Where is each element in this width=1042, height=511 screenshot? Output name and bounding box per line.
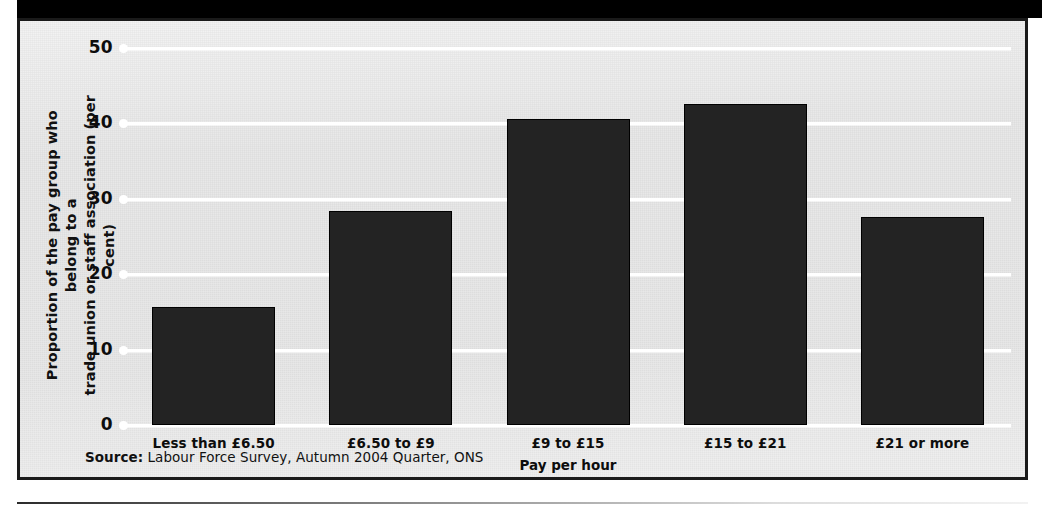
y-axis-tick-label: 40 xyxy=(89,112,113,132)
x-axis-category-label: £15 to £21 xyxy=(657,435,834,451)
gridline: 50 xyxy=(125,47,1011,50)
source-label: Source: xyxy=(85,449,143,465)
plot-area: 01020304050 Less than £6.50£6.50 to £9£9… xyxy=(125,28,1011,477)
bar xyxy=(152,307,275,425)
y-axis-tick-label: 0 xyxy=(101,414,113,434)
x-axis-category-label: £21 or more xyxy=(834,435,1011,451)
y-axis-tick-label: 50 xyxy=(89,37,113,57)
gridline-dot-marker xyxy=(119,119,128,128)
source-note: Source: Labour Force Survey, Autumn 2004… xyxy=(85,449,483,465)
page-top-band xyxy=(17,0,1042,18)
gridline-dot-marker xyxy=(119,346,128,355)
bar xyxy=(684,104,807,425)
gridline-dot-marker xyxy=(119,421,128,430)
gridline-dot-marker xyxy=(119,270,128,279)
source-value: Labour Force Survey, Autumn 2004 Quarter… xyxy=(143,449,483,465)
x-axis-category-label: £9 to £15 xyxy=(479,435,656,451)
bar xyxy=(507,119,630,425)
bar xyxy=(329,211,452,425)
y-axis-tick-label: 10 xyxy=(89,339,113,359)
bar xyxy=(861,217,984,425)
y-axis-tick-label: 20 xyxy=(89,263,113,283)
chart-figure: Proportion of the pay group who belong t… xyxy=(17,18,1028,480)
gridline-dot-marker xyxy=(119,44,128,53)
page-bottom-rule xyxy=(17,502,1028,504)
gridline-dot-marker xyxy=(119,195,128,204)
y-axis-tick-label: 30 xyxy=(89,188,113,208)
x-axis-title: Pay per hour xyxy=(479,457,656,473)
